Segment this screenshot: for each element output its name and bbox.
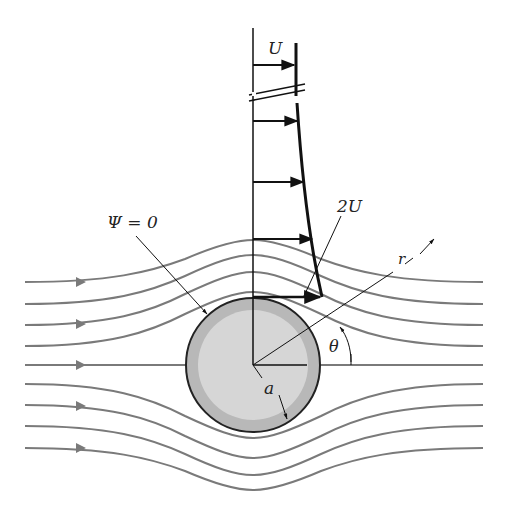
velocity-profile bbox=[249, 43, 322, 297]
label-r: r bbox=[398, 250, 406, 268]
streamline-below-4 bbox=[25, 448, 483, 490]
label-freestream-u: U bbox=[268, 38, 283, 58]
streamline-above-4 bbox=[25, 240, 483, 282]
flow-diagram: U 2U Ψ = 0 r θ a bbox=[0, 0, 505, 523]
label-theta: θ bbox=[329, 337, 339, 356]
label-stream-function: Ψ = 0 bbox=[107, 212, 158, 232]
radius-ray-dashed-1 bbox=[405, 258, 413, 264]
label-a: a bbox=[264, 378, 274, 398]
radius-ray-arrow bbox=[420, 239, 434, 254]
label-max-velocity: 2U bbox=[336, 196, 363, 216]
streamline-arrowheads bbox=[76, 277, 86, 453]
leader-psi bbox=[136, 236, 207, 314]
theta-arc bbox=[340, 327, 351, 362]
